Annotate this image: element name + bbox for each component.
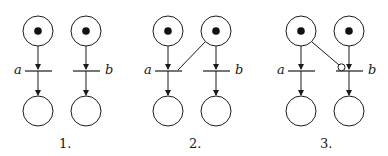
petri-net-diagram: a b 1. a b 2. a <box>0 0 388 156</box>
inhibitor-arc <box>312 42 339 65</box>
token <box>82 27 90 35</box>
transition-label-b: b <box>368 62 376 77</box>
transition-label-a: a <box>14 62 22 77</box>
output-place-a <box>153 96 183 126</box>
cross-arc-b-place-to-a <box>178 42 205 70</box>
transition-label-b: b <box>235 62 243 77</box>
transition-label-a: a <box>277 62 285 77</box>
output-place-b <box>334 96 364 126</box>
panel-1: a b 1. <box>14 16 113 151</box>
transition-label-b: b <box>105 62 113 77</box>
panel-caption: 3. <box>320 136 332 151</box>
inhibitor-circle-icon <box>338 64 345 71</box>
panel-2: a b 2. <box>144 16 243 151</box>
panel-caption: 1. <box>59 136 71 151</box>
transition-label-a: a <box>144 62 152 77</box>
token <box>297 27 305 35</box>
token <box>34 27 42 35</box>
panel-3: a b 3. <box>277 16 376 151</box>
token <box>212 27 220 35</box>
output-place-b <box>201 96 231 126</box>
panel-caption: 2. <box>189 136 201 151</box>
output-place-b <box>71 96 101 126</box>
token <box>164 27 172 35</box>
token <box>345 27 353 35</box>
output-place-a <box>286 96 316 126</box>
output-place-a <box>23 96 53 126</box>
